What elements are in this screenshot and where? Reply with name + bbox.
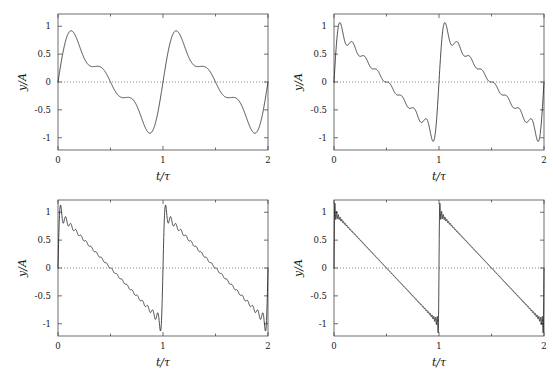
y-tick-label: -1	[43, 133, 51, 143]
x-tick-label: 0	[331, 341, 336, 351]
panel-bottom-left-svg: 01210.50-0.5-1 t/τ y/A	[0, 186, 277, 373]
y-tick-label: 1	[46, 21, 51, 31]
x-tick-label: 1	[160, 341, 165, 351]
fourier-curve	[334, 23, 544, 142]
y-tick-label: 0	[322, 263, 327, 273]
y-tick-label: 0.5	[37, 49, 51, 59]
x-axis-label: t/τ	[156, 170, 171, 183]
fourier-curve	[58, 31, 268, 133]
x-axis-label: t/τ	[156, 356, 171, 369]
y-tick-label: 0	[46, 263, 51, 273]
y-tick-label: 0	[46, 77, 51, 87]
y-tick-label: -1	[319, 319, 327, 329]
figure-four-panel-fourier-sawtooth: 01210.50-0.5-1 t/τ y/A 01210.50-0.5-1 t/…	[0, 0, 553, 373]
y-tick-label: -1	[43, 319, 51, 329]
x-axis-label: t/τ	[432, 170, 447, 183]
tick-labels: 01210.50-0.5-1	[311, 207, 547, 351]
y-tick-label: 1	[46, 207, 51, 217]
panel-top-right-svg: 01210.50-0.5-1 t/τ y/A	[276, 0, 553, 187]
y-axis-label: y/A	[292, 73, 305, 92]
x-tick-label: 0	[331, 155, 336, 165]
panel-bottom-right-svg: 01210.50-0.5-1 t/τ y/A	[276, 186, 553, 373]
tick-labels: 01210.50-0.5-1	[311, 21, 547, 165]
y-tick-label: 0	[322, 77, 327, 87]
tick-labels: 01210.50-0.5-1	[35, 21, 271, 165]
x-tick-label: 1	[436, 155, 441, 165]
y-tick-label: 1	[322, 21, 327, 31]
fourier-curve	[334, 203, 544, 333]
y-tick-label: -0.5	[35, 291, 51, 301]
x-axis-label: t/τ	[432, 356, 447, 369]
y-tick-label: -1	[319, 133, 327, 143]
x-tick-label: 0	[55, 341, 60, 351]
y-axis-label: y/A	[292, 259, 305, 278]
x-tick-label: 2	[265, 155, 270, 165]
panel-top-right: 01210.50-0.5-1 t/τ y/A	[276, 0, 553, 187]
x-tick-label: 2	[265, 341, 270, 351]
y-tick-label: -0.5	[311, 105, 327, 115]
y-axis-label: y/A	[16, 73, 29, 92]
tick-labels: 01210.50-0.5-1	[35, 207, 271, 351]
panel-top-left: 01210.50-0.5-1 t/τ y/A	[0, 0, 277, 187]
x-tick-label: 0	[55, 155, 60, 165]
panel-top-left-svg: 01210.50-0.5-1 t/τ y/A	[0, 0, 277, 187]
x-tick-label: 2	[541, 155, 546, 165]
x-tick-label: 2	[541, 341, 546, 351]
y-tick-label: 0.5	[313, 235, 327, 245]
y-tick-label: -0.5	[35, 105, 51, 115]
fourier-curve	[58, 205, 268, 331]
y-tick-label: -0.5	[311, 291, 327, 301]
panel-bottom-left: 01210.50-0.5-1 t/τ y/A	[0, 186, 277, 373]
panel-bottom-right: 01210.50-0.5-1 t/τ y/A	[276, 186, 553, 373]
x-tick-label: 1	[160, 155, 165, 165]
y-axis-label: y/A	[16, 259, 29, 278]
x-tick-label: 1	[436, 341, 441, 351]
y-tick-label: 0.5	[313, 49, 327, 59]
y-tick-label: 1	[322, 207, 327, 217]
y-tick-label: 0.5	[37, 235, 51, 245]
